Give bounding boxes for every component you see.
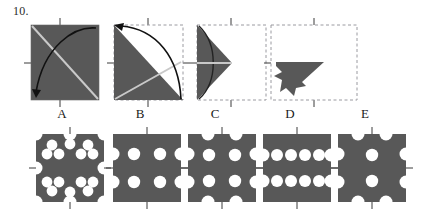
option-e-sheet xyxy=(330,126,414,210)
option-label-b: B xyxy=(120,106,160,122)
option-label-e: E xyxy=(345,106,385,122)
fold-step-4 xyxy=(262,16,352,108)
options-row xyxy=(0,126,427,210)
fold-sequence-row xyxy=(0,16,427,108)
option-e[interactable] xyxy=(330,126,414,210)
option-label-c: C xyxy=(195,106,235,122)
option-b-sheet xyxy=(105,126,189,210)
punched-packet-shape xyxy=(274,62,324,96)
fold-step-2 xyxy=(105,16,195,108)
option-c-sheet xyxy=(180,126,264,210)
option-labels-row: A B C D E xyxy=(0,106,427,126)
option-label-a: A xyxy=(42,106,82,122)
option-b[interactable] xyxy=(105,126,189,210)
option-a[interactable] xyxy=(28,126,112,210)
option-label-d: D xyxy=(270,106,310,122)
option-d-sheet xyxy=(255,126,339,210)
option-d[interactable] xyxy=(255,126,339,210)
fold-step-1 xyxy=(22,16,112,108)
option-a-sheet xyxy=(28,126,112,210)
option-c[interactable] xyxy=(180,126,264,210)
